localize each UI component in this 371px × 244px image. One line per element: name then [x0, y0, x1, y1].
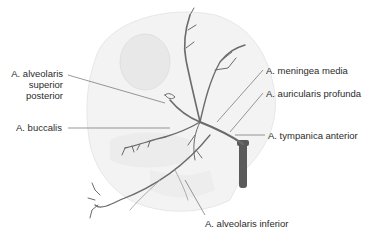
label-buccalis: A. buccalis: [16, 122, 62, 133]
label-tympanica-anterior: A. tympanica anterior: [268, 130, 358, 141]
label-line-3: posterior: [11, 90, 63, 101]
label-auricularis-profunda: A. auricularis profunda: [266, 88, 361, 99]
label-line-2: superior: [11, 79, 63, 90]
label-alveolaris-inferior: A. alveolaris inferior: [205, 218, 288, 229]
label-alveolaris-superior-posterior: A. alveolaris superior posterior: [11, 68, 63, 101]
label-line-1: A. alveolaris: [11, 68, 63, 79]
label-meningea-media: A. meningea media: [266, 65, 348, 76]
anatomy-figure: A. alveolaris superior posterior A. bucc…: [0, 0, 371, 244]
